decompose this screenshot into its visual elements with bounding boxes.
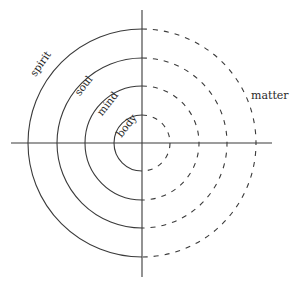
concentric-circles-diagram: body mind soul spirit matter (0, 0, 298, 287)
label-soul: soul (72, 73, 95, 98)
label-mind: mind (94, 89, 120, 118)
label-spirit: spirit (27, 48, 53, 79)
ring-labels: body mind soul spirit (27, 48, 139, 139)
label-matter: matter (251, 89, 289, 102)
